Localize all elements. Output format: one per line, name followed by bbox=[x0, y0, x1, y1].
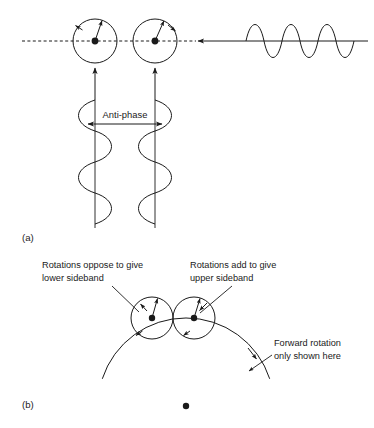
arc-tangent-arrow bbox=[184, 331, 191, 336]
carrier-arc bbox=[102, 318, 269, 379]
arc-direction-arrow bbox=[248, 348, 257, 359]
physics-diagram: Anti-phase (a) Rotations oppose to give … bbox=[0, 0, 374, 428]
center-dot bbox=[152, 38, 159, 45]
leader-line-lower-sideband bbox=[112, 286, 139, 312]
leader-line-forward-rotation bbox=[249, 355, 272, 371]
figure-root: Anti-phase (a) Rotations oppose to give … bbox=[0, 0, 374, 428]
annotation-lower-sideband-line2: lower sideband bbox=[42, 273, 104, 283]
center-dot bbox=[149, 315, 155, 321]
center-dot bbox=[191, 315, 197, 321]
panel-label-a: (a) bbox=[22, 232, 34, 243]
panel-label-b: (b) bbox=[22, 399, 34, 410]
tangent-arrow-cw bbox=[200, 303, 208, 311]
annotation-lower-sideband-line1: Rotations oppose to give bbox=[42, 260, 143, 270]
annotation-upper-sideband-line2: upper sideband bbox=[190, 273, 253, 283]
center-dot bbox=[92, 38, 99, 45]
annotation-forward-rotation-line2: only shown here bbox=[274, 351, 341, 361]
panel-b: Rotations oppose to give lower sideband … bbox=[22, 260, 341, 410]
carrier-center-dot bbox=[183, 403, 189, 409]
sideband-circle-lower bbox=[131, 297, 173, 339]
annotation-forward-rotation-line1: Forward rotation bbox=[274, 338, 341, 348]
tangent-arrow-ccw bbox=[141, 304, 148, 311]
panel-a: Anti-phase (a) bbox=[22, 19, 368, 243]
tangent-arrow-cw bbox=[168, 25, 176, 31]
anti-phase-label: Anti-phase bbox=[103, 109, 148, 120]
annotation-upper-sideband-line1: Rotations add to give bbox=[190, 260, 276, 270]
